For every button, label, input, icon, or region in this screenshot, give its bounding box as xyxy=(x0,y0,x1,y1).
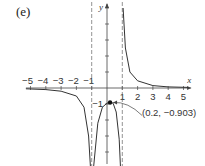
x-tick-label: −2 xyxy=(68,75,79,86)
x-tick-label: −4 xyxy=(37,75,48,86)
x-tick-label: −5 xyxy=(22,75,33,86)
annotation-text: (0.2, −0.903) xyxy=(142,107,196,118)
x-tick-label: −1 xyxy=(83,75,94,86)
x-tick-label: 5 xyxy=(181,91,186,102)
x-tick-label: 4 xyxy=(166,91,171,102)
x-tick-label: 2 xyxy=(135,91,140,102)
x-tick-label: −3 xyxy=(53,75,64,86)
annotation: (0.2, −0.903) xyxy=(108,100,196,118)
x-tick-label: 3 xyxy=(150,91,155,102)
y-axis-arrow-icon xyxy=(105,3,109,8)
axes: −5−4−3−2−112345−1xy xyxy=(22,2,191,166)
curve-left-branch xyxy=(26,89,91,166)
x-axis-arrow-icon xyxy=(187,86,191,90)
x-axis-label: x xyxy=(186,75,191,85)
annotation-leader xyxy=(113,102,142,115)
y-axis-label: y xyxy=(98,2,103,12)
critical-point-marker xyxy=(108,100,112,104)
curve-right-branch xyxy=(123,8,188,87)
y-tick-label: −1 xyxy=(92,98,103,109)
plot: −5−4−3−2−112345−1xy (0.2, −0.903) xyxy=(0,0,205,166)
